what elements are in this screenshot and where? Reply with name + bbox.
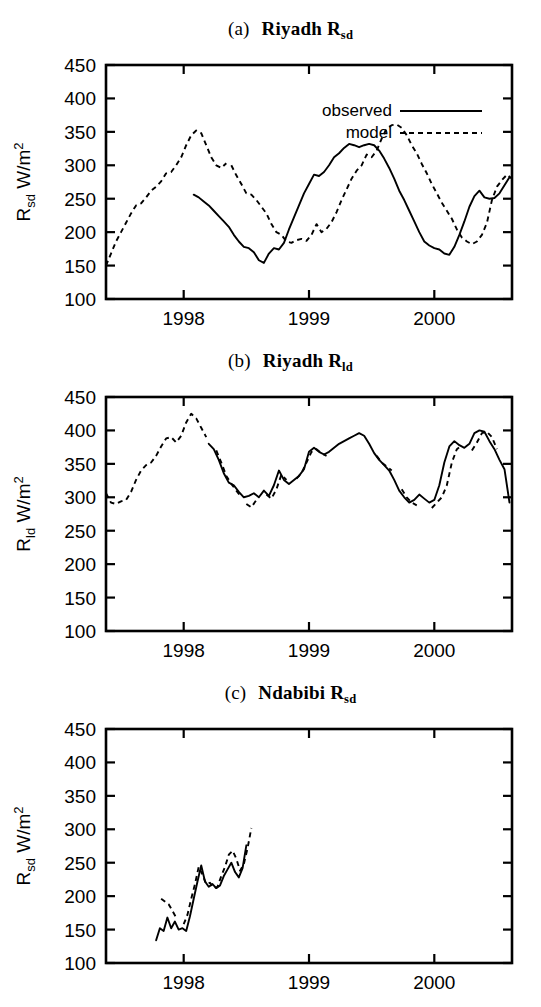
y-tick-label: 100 [64, 621, 96, 642]
series-line-observed [194, 143, 510, 262]
y-axis-title: Rsd W/m2 [11, 806, 38, 885]
y-tick-label: 100 [64, 289, 96, 310]
series-line-model [161, 898, 176, 917]
y-tick-label: 450 [64, 55, 96, 76]
x-tick-label: 1999 [288, 308, 330, 329]
panel-c-station: Ndabibi [258, 682, 325, 703]
panel-c-plot: 100150200250300350400450199819992000Rsd … [0, 707, 541, 997]
y-tick-label: 400 [64, 420, 96, 441]
y-axis-unit: W/m [13, 483, 34, 527]
panel-c-quantity: Rsd [330, 682, 356, 703]
y-axis-title-text: Rsd W/m2 [11, 142, 38, 221]
plot-frame [106, 397, 512, 631]
panel-a-quantity: Rsd [327, 18, 353, 39]
panel-a-plot: 100150200250300350400450199819992000Rsd … [0, 43, 541, 333]
x-tick-label: 2000 [413, 308, 455, 329]
y-axis-unit-sup: 2 [11, 142, 26, 149]
y-axis-title: Rld W/m2 [11, 476, 38, 551]
y-axis-quantity: R [13, 537, 34, 551]
y-axis-quantity-sub: ld [23, 527, 38, 537]
panel-c-title: (c)Ndabibi Rsd [0, 682, 541, 707]
panel-a-tag: (a) [228, 18, 250, 39]
y-axis-unit: W/m [13, 149, 34, 193]
y-tick-label: 150 [64, 587, 96, 608]
series-line-observed [209, 430, 510, 502]
y-tick-label: 200 [64, 886, 96, 907]
y-tick-label: 450 [64, 387, 96, 408]
series-line-model [246, 499, 256, 506]
y-axis-quantity-sub: sd [23, 858, 38, 872]
panel-b: (b)Riyadh Rld 10015020025030035040045019… [0, 350, 541, 665]
series-line-model [106, 130, 226, 265]
y-axis-unit-sup: 2 [11, 806, 26, 813]
plot-frame [106, 729, 512, 963]
panel-b-station: Riyadh [263, 350, 323, 371]
panel-b-tag: (b) [228, 350, 251, 371]
y-tick-label: 400 [64, 88, 96, 109]
panel-c: (c)Ndabibi Rsd 1001502002503003504004501… [0, 682, 541, 997]
y-axis-unit: W/m [13, 813, 34, 857]
y-axis-title-text: Rsd W/m2 [11, 806, 38, 885]
y-tick-label: 300 [64, 819, 96, 840]
x-tick-label: 1998 [163, 308, 205, 329]
x-tick-label: 1999 [288, 640, 330, 661]
y-tick-label: 300 [64, 487, 96, 508]
series-line-model [231, 124, 512, 244]
legend-label-observed: observed [322, 101, 392, 120]
panel-a-station: Riyadh [262, 18, 322, 39]
y-tick-label: 150 [64, 255, 96, 276]
y-tick-label: 100 [64, 953, 96, 974]
y-tick-label: 350 [64, 453, 96, 474]
y-tick-label: 350 [64, 785, 96, 806]
panel-b-title: (b)Riyadh Rld [0, 350, 541, 375]
y-tick-label: 150 [64, 919, 96, 940]
y-axis-title: Rsd W/m2 [11, 142, 38, 221]
legend-label-model: model [346, 123, 392, 142]
series-line-model [106, 413, 206, 503]
y-tick-label: 450 [64, 719, 96, 740]
y-axis-unit-sup: 2 [11, 476, 26, 483]
y-axis-quantity: R [13, 871, 34, 885]
y-tick-label: 250 [64, 520, 96, 541]
figure-container: (a)Riyadh Rsd 10015020025030035040045019… [0, 0, 541, 1007]
y-tick-label: 300 [64, 155, 96, 176]
y-tick-label: 400 [64, 752, 96, 773]
x-tick-label: 1998 [163, 972, 205, 993]
panel-a-title: (a)Riyadh Rsd [0, 18, 541, 43]
panel-b-quantity: Rld [328, 350, 353, 371]
series-line-observed [156, 845, 246, 940]
y-tick-label: 250 [64, 188, 96, 209]
panel-b-plot: 100150200250300350400450199819992000Rld … [0, 375, 541, 665]
panel-c-tag: (c) [225, 682, 247, 703]
series-line-model [184, 827, 252, 923]
x-tick-label: 2000 [413, 972, 455, 993]
panel-a: (a)Riyadh Rsd 10015020025030035040045019… [0, 18, 541, 333]
x-tick-label: 1999 [288, 972, 330, 993]
y-tick-label: 250 [64, 852, 96, 873]
y-tick-label: 350 [64, 121, 96, 142]
y-tick-label: 200 [64, 222, 96, 243]
x-tick-label: 2000 [413, 640, 455, 661]
y-axis-quantity: R [13, 207, 34, 221]
y-axis-title-text: Rld W/m2 [11, 476, 38, 551]
x-tick-label: 1998 [163, 640, 205, 661]
y-tick-label: 200 [64, 554, 96, 575]
y-axis-quantity-sub: sd [23, 194, 38, 208]
legend: observedmodel [322, 101, 482, 142]
